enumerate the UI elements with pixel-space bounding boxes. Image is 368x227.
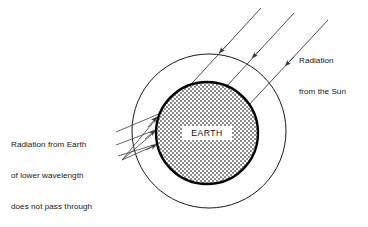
sun-radiation-label-line2: from the Sun (299, 87, 346, 97)
earth-label: EARTH (182, 126, 232, 140)
diagram-canvas: EARTH Radiation from Earth of lower wave… (0, 0, 368, 227)
earth-radiation-label-line1: Radiation from Earth (11, 140, 92, 150)
sun-ray-1-arrowhead (221, 44, 228, 51)
sun-radiation-label-line1: Radiation (299, 56, 346, 66)
sun-ray-3-arrowhead (287, 57, 294, 64)
sun-radiation-label: Radiation from the Sun (299, 35, 346, 118)
earth-radiation-label-line3: does not pass through (11, 202, 92, 212)
sun-ray-2-arrowhead (254, 49, 261, 56)
earth-radiation-label: Radiation from Earth of lower wavelength… (11, 119, 92, 227)
earth-radiation-label-line2: of lower wavelength (11, 171, 92, 181)
